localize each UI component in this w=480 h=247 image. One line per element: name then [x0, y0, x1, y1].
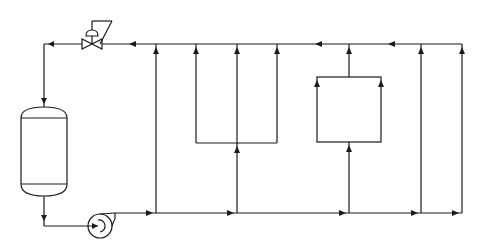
vessel — [21, 107, 67, 196]
supply-header — [115, 210, 462, 216]
u-loop-branch — [193, 44, 280, 213]
process-flow-diagram — [0, 0, 480, 247]
exchanger-box-branch — [314, 44, 384, 213]
riser-1 — [153, 44, 159, 213]
control-valve-icon — [82, 21, 112, 49]
riser-5 — [459, 44, 465, 213]
vessel-outlet-line — [41, 196, 98, 229]
riser-4 — [418, 44, 424, 213]
vessel-inlet-line — [41, 41, 82, 107]
